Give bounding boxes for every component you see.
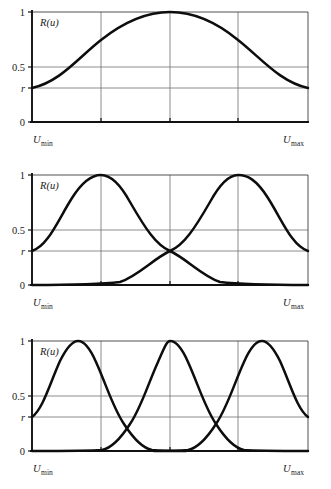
ytick-label-zero: 0 — [20, 117, 25, 128]
ytick-label-half: 0.5 — [12, 225, 25, 236]
xaxis-label-min: Umin — [33, 297, 53, 311]
ytick-label-r: r — [21, 83, 26, 94]
xaxis-label-max-sub: max — [291, 468, 304, 477]
series-label: R(u) — [39, 346, 59, 358]
chart-2-axes — [28, 174, 308, 285]
xaxis-label-min-sub: min — [41, 139, 53, 148]
membership-chart-3: R(u) 1 0.5 r 0 Umin Umax — [0, 326, 331, 489]
xaxis-label-max-sub: max — [291, 139, 304, 148]
xaxis-label-min: Umin — [33, 463, 53, 477]
ytick-label-one: 1 — [20, 170, 25, 181]
ytick-label-one: 1 — [20, 336, 25, 347]
xaxis-label-min-sub: min — [41, 302, 53, 311]
chart-3-axes — [28, 340, 308, 451]
ytick-label-one: 1 — [20, 7, 25, 18]
series-label: R(u) — [39, 17, 59, 29]
chart-2-grid — [32, 175, 308, 285]
xaxis-label-min-sub: min — [41, 468, 53, 477]
xaxis-label-max-sub: max — [291, 302, 304, 311]
xaxis-label-max: Umax — [283, 463, 304, 477]
membership-chart-1: R(u) 1 0.5 r 0 Umin Umax — [0, 0, 331, 163]
xaxis-label-max: Umax — [283, 297, 304, 311]
ytick-label-r: r — [21, 412, 26, 423]
ytick-label-r: r — [21, 246, 26, 257]
chart-3-canvas: R(u) 1 0.5 r 0 Umin Umax — [0, 326, 331, 489]
ytick-label-half: 0.5 — [12, 391, 25, 402]
membership-chart-2: R(u) 1 0.5 r 0 Umin Umax — [0, 160, 331, 323]
ytick-label-zero: 0 — [20, 280, 25, 291]
chart-3-grid — [32, 341, 308, 451]
chart-1-grid — [32, 12, 308, 122]
ytick-label-zero: 0 — [20, 446, 25, 457]
ytick-label-half: 0.5 — [12, 62, 25, 73]
series-label: R(u) — [39, 180, 59, 192]
chart-2-canvas: R(u) 1 0.5 r 0 Umin Umax — [0, 160, 331, 323]
xaxis-label-min: Umin — [33, 134, 53, 148]
xaxis-label-max: Umax — [283, 134, 304, 148]
chart-1-canvas: R(u) 1 0.5 r 0 Umin Umax — [0, 0, 331, 163]
